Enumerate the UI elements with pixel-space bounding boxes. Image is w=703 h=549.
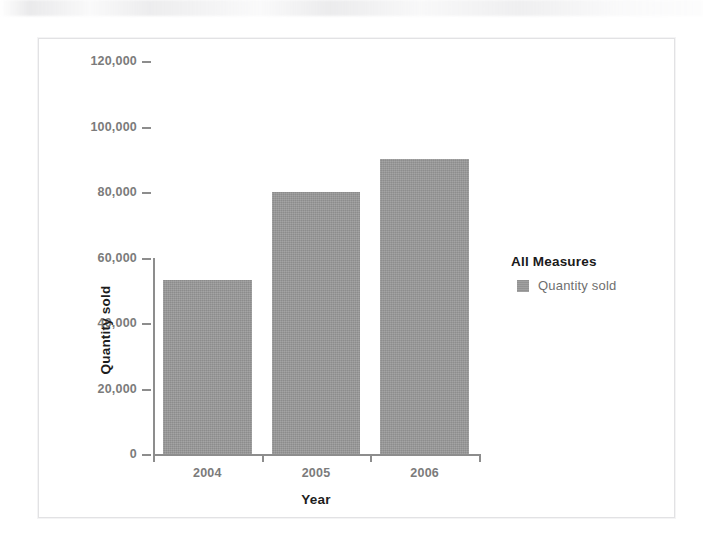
y-axis-tick-label: 100,000 <box>45 120 137 134</box>
bar-2005[interactable] <box>272 192 361 454</box>
legend-items: Quantity sold <box>511 278 616 293</box>
x-axis-tick-mark <box>153 454 155 462</box>
chart-frame: 020,00040,00060,00080,000100,000120,000Q… <box>38 38 675 518</box>
x-axis-tick-mark <box>370 454 372 462</box>
y-axis-tick-label: 80,000 <box>45 185 137 199</box>
x-axis-title: Year <box>301 492 330 507</box>
y-axis-tick-label: 0 <box>45 447 137 461</box>
y-axis-tick-mark <box>142 454 151 456</box>
y-axis-tick-mark <box>142 61 151 63</box>
y-axis-tick-label: 40,000 <box>45 316 137 330</box>
y-axis-tick-mark <box>142 127 151 129</box>
y-axis-tick-label: 120,000 <box>45 54 137 68</box>
x-axis-tick-label: 2006 <box>410 466 439 480</box>
y-axis-tick-label: 60,000 <box>45 251 137 265</box>
legend-swatch-icon <box>517 280 529 292</box>
legend-title: All Measures <box>511 254 616 269</box>
bar-2006[interactable] <box>380 159 469 454</box>
y-axis-tick-mark <box>142 192 151 194</box>
legend-item[interactable]: Quantity sold <box>511 278 616 293</box>
y-axis-line <box>153 258 155 455</box>
x-axis-tick-label: 2004 <box>193 466 222 480</box>
x-axis-tick-mark <box>479 454 481 462</box>
y-axis-tick-label: 20,000 <box>45 382 137 396</box>
y-axis-tick-mark <box>142 258 151 260</box>
bar-2004[interactable] <box>163 280 252 454</box>
y-axis-tick-mark <box>142 389 151 391</box>
scan-artifact-top-line <box>0 0 703 16</box>
y-axis-tick-mark <box>142 323 151 325</box>
chart-legend: All Measures Quantity sold <box>511 254 616 293</box>
x-axis-tick-label: 2005 <box>302 466 331 480</box>
legend-item-label: Quantity sold <box>538 278 616 293</box>
y-axis-title: Quantity sold <box>98 260 113 400</box>
x-axis-tick-mark <box>262 454 264 462</box>
x-axis-line <box>153 454 479 456</box>
